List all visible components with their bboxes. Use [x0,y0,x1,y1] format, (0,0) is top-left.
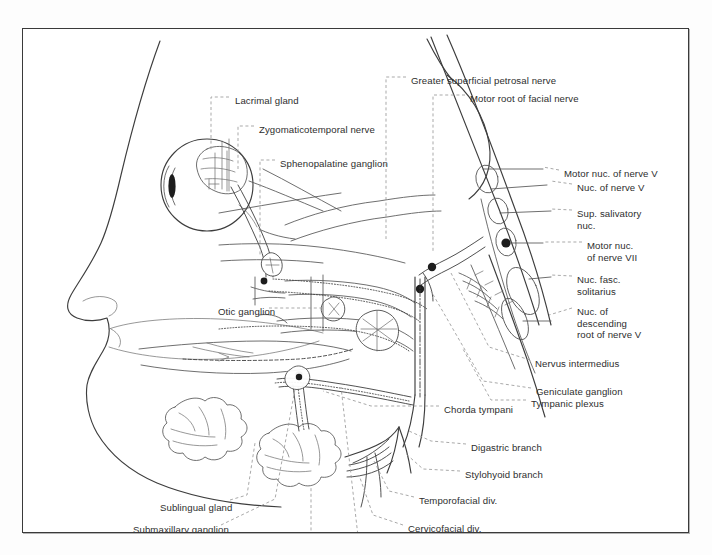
label-nuc-of-descending-root-of-nerve-v: Nuc. of descending root of nerve V [577,306,641,341]
label-sphenopalatine-ganglion: Sphenopalatine ganglion [280,158,388,170]
label-sublingual-gland: Sublingual gland [160,502,232,514]
label-geniculate-ganglion: Geniculate ganglion [536,386,623,398]
label-submaxillary-ganglion: Submaxillary ganglion [133,524,229,533]
label-otic-ganglion: Otic ganglion [218,306,275,318]
figure-frame: .ink { fill:none; stroke:#3d3d3d; stroke… [22,28,689,533]
label-zygomaticotemporal-nerve: Zygomaticotemporal nerve [259,124,375,136]
otic-ganglion-node [321,297,345,321]
label-chorda-tympani: Chorda tympani [444,404,513,416]
label-cervicofacial-div: Cervicofacial div. [408,523,482,533]
label-motor-nuc-of-nerve-vii: Motor nuc. of nerve VII [587,240,637,263]
label-nuc-fasc-solitarius: Nuc. fasc. solitarius [577,274,621,297]
label-motor-nuc-of-nerve-v: Motor nuc. of nerve V [564,168,658,180]
label-lacrimal-gland: Lacrimal gland [235,95,299,107]
label-nervus-intermedius: Nervus intermedius [535,358,619,370]
label-sup-salivatory-nuc: Sup. salivatory nuc. [577,208,641,231]
label-motor-root-of-facial-nerve: Motor root of facial nerve [470,93,579,105]
label-greater-superficial-petrosal-nerve: Greater superficial petrosal nerve [411,75,556,87]
label-tympanic-plexus: Tympanic plexus [531,398,604,410]
label-stylohyoid-branch: Stylohyoid branch [465,469,543,481]
label-digastric-branch: Digastric branch [471,442,542,454]
label-temporofacial-div: Temporofacial div. [419,495,497,507]
label-nuc-of-nerve-v: Nuc. of nerve V [577,182,645,194]
